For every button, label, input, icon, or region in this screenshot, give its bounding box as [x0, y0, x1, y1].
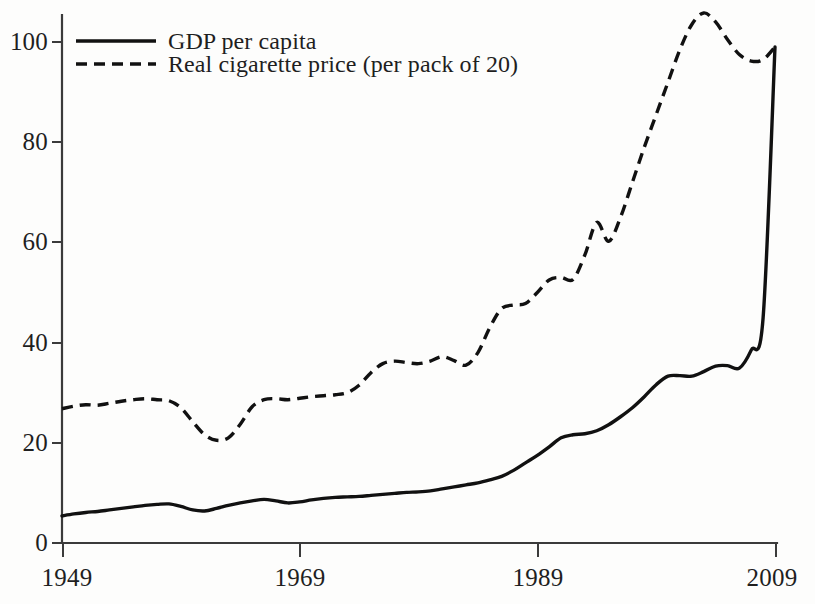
x-tick-label-2009: 2009 [747, 564, 798, 592]
chart-plot-area [0, 0, 815, 604]
x-tick-label-1989: 1989 [513, 564, 564, 592]
y-tick-label-80: 80 [23, 128, 48, 156]
y-tick-label-100: 100 [10, 28, 48, 56]
x-tick-label-1969: 1969 [275, 564, 326, 592]
x-axis-ticks [63, 543, 776, 557]
chart-container: 100 80 60 40 20 0 1949 1969 1989 2009 GD… [0, 0, 815, 604]
legend-label-real-cigarette-price: Real cigarette price (per pack of 20) [168, 51, 518, 78]
series-line-gdp-per-capita [62, 47, 775, 516]
y-tick-label-0: 0 [35, 529, 48, 557]
y-tick-label-20: 20 [23, 429, 48, 457]
y-tick-label-60: 60 [23, 228, 48, 256]
y-axis-ticks [52, 42, 62, 543]
x-tick-label-1949: 1949 [42, 564, 93, 592]
y-tick-label-40: 40 [23, 329, 48, 357]
